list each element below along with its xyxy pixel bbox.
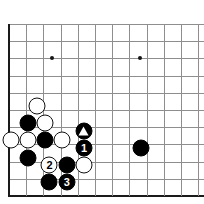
stone-white-move-2: 2 — [41, 157, 58, 174]
stone-white — [54, 132, 71, 149]
stone-black-move-1: 1 — [75, 139, 92, 156]
grid-line-vertical-6 — [112, 24, 113, 196]
grid-line-horizontal-1 — [8, 41, 204, 42]
grid-line-horizontal-4 — [8, 93, 204, 94]
grid-line-vertical-11 — [198, 24, 199, 196]
grid-line-vertical-8 — [147, 24, 148, 196]
grid-line-vertical-5 — [95, 24, 96, 196]
grid-line-horizontal-2 — [8, 58, 204, 59]
stone-black — [41, 174, 58, 191]
grid-line-horizontal-0 — [8, 24, 204, 25]
stone-white — [19, 132, 36, 149]
grid-line-horizontal-3 — [8, 76, 204, 77]
move-number-label: 3 — [64, 177, 70, 188]
grid-line-horizontal-9 — [8, 179, 204, 180]
stone-black — [37, 132, 54, 149]
stone-white — [75, 157, 92, 174]
star-point-left — [50, 56, 54, 60]
grid-line-vertical-0 — [8, 24, 10, 196]
stone-black — [132, 139, 149, 156]
triangle-icon — [79, 127, 89, 136]
stone-black-triangle-marked — [75, 122, 92, 139]
stone-white — [28, 97, 45, 114]
star-point-right — [138, 56, 142, 60]
stone-black-move-3: 3 — [58, 174, 75, 191]
grid-line-vertical-7 — [129, 24, 130, 196]
go-board-diagram: 123 — [0, 0, 204, 204]
stone-black — [19, 150, 36, 167]
stone-black — [58, 157, 75, 174]
grid-line-horizontal-8 — [8, 162, 204, 163]
stone-white — [2, 132, 19, 149]
stone-black — [19, 114, 36, 131]
stone-white — [37, 114, 54, 131]
move-number-label: 1 — [81, 142, 87, 153]
grid-line-vertical-9 — [164, 24, 165, 196]
grid-line-vertical-1 — [26, 24, 27, 196]
move-number-label: 2 — [47, 160, 53, 171]
grid-line-vertical-10 — [181, 24, 182, 196]
grid-line-horizontal-10 — [8, 195, 204, 197]
